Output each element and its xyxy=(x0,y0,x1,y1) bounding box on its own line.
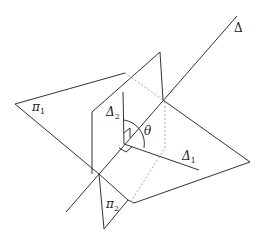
label-delta: Δ xyxy=(234,22,243,34)
label-delta2: Δ2 xyxy=(106,106,120,121)
plane-pi1-hidden-edge-top xyxy=(125,73,163,100)
plane-pi1-edge xyxy=(15,73,125,174)
diagram-canvas xyxy=(0,0,264,244)
label-pi1: π1 xyxy=(32,101,45,116)
label-delta1: Δ1 xyxy=(182,150,196,165)
label-pi2: π2 xyxy=(106,198,119,213)
label-theta: θ xyxy=(144,125,151,137)
right-angle-mark-delta2 xyxy=(124,128,130,138)
dihedral-angle-diagram: Δ π1 Δ2 θ Δ1 π2 xyxy=(0,0,264,244)
line-delta2 xyxy=(123,92,124,144)
right-angle-mark-delta1 xyxy=(119,147,132,152)
